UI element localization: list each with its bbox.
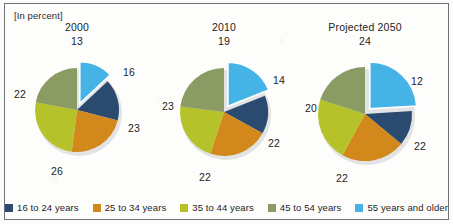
legend-divider (5, 192, 448, 193)
legend-swatch-icon (180, 204, 188, 212)
legend-item-25-to-34-years[interactable]: 25 to 34 years (93, 202, 167, 213)
legend-swatch-icon (5, 204, 13, 212)
legend-label: 45 to 54 years (280, 202, 342, 213)
legend-item-35-to-44-years[interactable]: 35 to 44 years (180, 202, 254, 213)
legend-item-45-to-54-years[interactable]: 45 to 54 years (268, 202, 342, 213)
pie-slice-value-label: 22 (400, 140, 440, 152)
legend-label: 16 to 24 years (17, 202, 79, 213)
legend-label: 55 years and older (367, 202, 448, 213)
legend-swatch-icon (268, 204, 276, 212)
legend-item-55-years-and-older[interactable]: 55 years and older (355, 202, 448, 213)
legend-swatch-icon (355, 204, 363, 212)
legend-label: 25 to 34 years (105, 202, 167, 213)
pie-projected-2050 (0, 0, 453, 224)
pie-chart-figure: [In percent] 200013162326222010191422222… (0, 0, 453, 224)
legend-label: 35 to 44 years (192, 202, 254, 213)
pie-slice-value-label: 24 (345, 35, 385, 47)
pie-slice-value-label: 22 (322, 172, 362, 184)
pie-slice-value-label: 12 (397, 75, 437, 87)
pie-slice-value-label: 20 (291, 102, 331, 114)
legend-item-16-to-24-years[interactable]: 16 to 24 years (5, 202, 79, 213)
legend-swatch-icon (93, 204, 101, 212)
chart-legend: 16 to 24 years25 to 34 years35 to 44 yea… (0, 202, 453, 213)
